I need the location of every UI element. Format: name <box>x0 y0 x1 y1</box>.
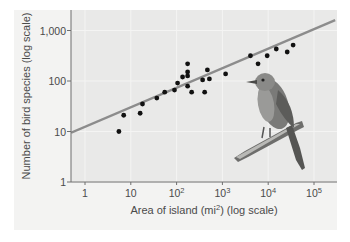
data-point <box>202 90 207 95</box>
data-point <box>223 72 228 77</box>
data-point <box>274 47 279 52</box>
data-point <box>140 102 145 107</box>
data-point <box>121 113 126 118</box>
data-point <box>180 75 185 80</box>
data-point <box>291 43 296 48</box>
x-tick-label: 105 <box>306 186 322 199</box>
x-axis-title: Area of island (mi2) (log scale) <box>130 203 277 216</box>
data-point <box>248 53 253 58</box>
data-point <box>154 96 159 101</box>
data-point <box>162 90 167 95</box>
y-tick-label: 100 <box>48 75 66 87</box>
x-tick-label: 1 <box>82 187 88 199</box>
data-point <box>285 50 290 55</box>
data-point <box>172 88 177 93</box>
x-tick-label: 10 <box>125 187 137 199</box>
data-point <box>185 74 190 79</box>
data-point <box>256 61 261 66</box>
y-tick-label: 1,000 <box>40 25 66 37</box>
x-tick-label: 102 <box>169 186 185 199</box>
data-point <box>265 53 270 58</box>
data-point <box>200 78 205 83</box>
y-axis-ticks: 1101001,000 <box>40 25 71 189</box>
data-point <box>185 61 190 66</box>
y-axis-title: Number of bird species (log scale) <box>20 13 32 180</box>
data-point <box>117 129 122 134</box>
data-point <box>185 84 190 89</box>
data-point <box>205 67 210 72</box>
data-point <box>207 77 212 82</box>
scatter-chart: 110102103104105 1101001,000 Area of isla… <box>0 0 350 242</box>
data-point <box>138 111 143 116</box>
y-tick-label: 1 <box>60 176 66 188</box>
x-tick-label: 104 <box>260 186 276 199</box>
x-tick-label: 103 <box>214 186 230 199</box>
data-point <box>175 81 180 86</box>
y-tick-label: 10 <box>54 126 66 138</box>
x-axis-ticks: 110102103104105 <box>82 182 322 199</box>
data-point <box>189 90 194 95</box>
